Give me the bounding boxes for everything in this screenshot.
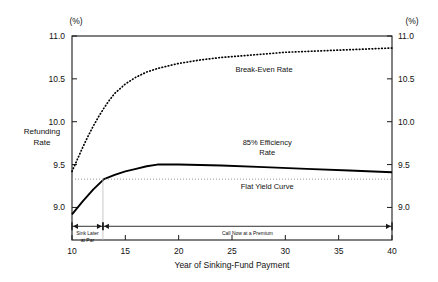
chart-figure: (%) (%) Refunding Rate 101520253035409.0… [0,0,438,282]
refunding-rate-chart: (%) (%) Refunding Rate 101520253035409.0… [0,0,438,282]
annotation-label: Call Now at a Premium [222,230,273,236]
y-axis-label-line1: Refunding [24,127,60,136]
y-tick-label-right: 9.0 [398,202,410,212]
series-label: Rate [259,148,275,157]
left-axis-unit: (%) [69,16,82,26]
y-tick-label-left: 11.0 [49,31,65,41]
y-tick-label-right: 10.0 [398,117,415,127]
x-tick-label: 30 [281,246,291,256]
x-tick-label: 40 [387,246,397,256]
y-tick-label-right: 10.5 [398,74,415,84]
y-tick-label-left: 10.5 [48,74,65,84]
annotation-label: Sink Later [76,230,99,236]
x-tick-label: 10 [67,246,77,256]
y-axis-label-line2: Rate [34,138,51,147]
series-label: 85% Efficiency [243,138,292,147]
x-tick-label: 20 [174,246,184,256]
series-label: Flat Yield Curve [241,182,294,191]
y-tick-label-left: 10.0 [48,117,65,127]
y-tick-label-right: 9.5 [398,160,410,170]
annotation-label: at Par [81,237,95,243]
x-tick-label: 35 [334,246,344,256]
x-tick-label: 25 [227,246,237,256]
y-tick-label-left: 9.5 [53,160,65,170]
right-axis-unit: (%) [405,16,418,26]
x-tick-label: 15 [121,246,131,256]
x-axis-label: Year of Sinking-Fund Payment [175,260,291,270]
y-tick-label-left: 9.0 [53,202,65,212]
y-tick-label-right: 11.0 [398,31,414,41]
series-label: Break-Even Rate [235,65,292,74]
